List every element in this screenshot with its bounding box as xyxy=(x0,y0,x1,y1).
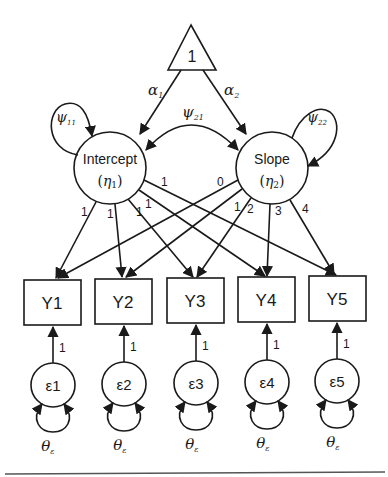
slope-y2-path xyxy=(126,189,242,277)
slope-y4-path xyxy=(267,204,270,276)
svg-text:1: 1 xyxy=(59,341,66,355)
svg-text:ε1: ε1 xyxy=(45,377,60,394)
theta-loop-1 xyxy=(37,404,70,432)
eta1-label: (η1) xyxy=(97,173,122,190)
int-loading-y5: 1 xyxy=(161,175,168,189)
theta-loop-3 xyxy=(180,402,213,430)
error-e2: 1 ε2 θε xyxy=(102,326,146,455)
svg-text:θε: θε xyxy=(256,434,269,453)
svg-text:1: 1 xyxy=(343,337,350,351)
observed-y1: Y1 xyxy=(24,280,81,325)
psi11-label: ψ11 xyxy=(56,109,76,127)
int-loading-y1: 1 xyxy=(81,205,88,219)
observed-y3: Y3 xyxy=(167,278,224,323)
error-e3: 1 ε3 θε xyxy=(174,325,218,454)
svg-text:ε5: ε5 xyxy=(329,373,344,390)
slope-label: Slope xyxy=(254,151,290,167)
theta-loop-2 xyxy=(108,403,141,431)
svg-text:θε: θε xyxy=(113,436,126,455)
alpha2-path xyxy=(203,70,246,134)
svg-text:ε3: ε3 xyxy=(188,375,203,392)
svg-text:θε: θε xyxy=(185,435,198,454)
svg-text:1: 1 xyxy=(273,338,280,352)
slope-loading-y3: 2 xyxy=(247,202,254,216)
intercept-label: Intercept xyxy=(83,151,138,167)
lgcm-path-diagram: 1 α1 α2 ψ21 Intercept (η1) ψ11 Slope (η2… xyxy=(0,0,388,477)
svg-text:Y5: Y5 xyxy=(327,290,348,309)
observed-y2: Y2 xyxy=(95,279,152,324)
svg-text:Y4: Y4 xyxy=(256,291,277,310)
svg-text:θε: θε xyxy=(41,437,54,456)
error-e4: 1 ε4 θε xyxy=(245,324,289,453)
svg-text:Y2: Y2 xyxy=(113,293,134,312)
svg-text:1: 1 xyxy=(202,339,209,353)
int-loading-y2: 1 xyxy=(107,207,114,221)
intercept-latent: Intercept (η1) xyxy=(74,132,146,204)
slope-loading-y1: 0 xyxy=(217,175,224,189)
observed-y4: Y4 xyxy=(238,277,295,322)
error-e1: 1 ε1 θε xyxy=(31,327,75,456)
constant-label: 1 xyxy=(188,48,197,65)
eta2-label: (η2) xyxy=(259,173,284,190)
observed-y5: Y5 xyxy=(309,276,366,321)
theta-loop-4 xyxy=(251,401,284,429)
slope-latent: Slope (η2) xyxy=(236,132,308,204)
psi21-label: ψ21 xyxy=(182,103,204,122)
constant-node: 1 xyxy=(168,25,216,70)
psi22-label: ψ22 xyxy=(307,109,327,127)
intercept-y2-path xyxy=(115,204,122,277)
int-loading-y4: 1 xyxy=(145,197,152,211)
svg-text:Y1: Y1 xyxy=(42,294,63,313)
error-e5: 1 ε5 θε xyxy=(315,323,359,452)
theta-loop-5 xyxy=(321,400,354,428)
alpha1-path xyxy=(140,70,181,134)
svg-text:θε: θε xyxy=(326,433,339,452)
covariance-arc xyxy=(146,125,238,150)
int-loading-y3: 1 xyxy=(136,205,143,219)
alpha2-label: α2 xyxy=(224,81,239,100)
slope-loading-y2: 1 xyxy=(234,200,241,214)
alpha1-label: α1 xyxy=(148,81,163,100)
slope-loading-y5: 4 xyxy=(302,202,309,216)
slope-loading-y4: 3 xyxy=(275,204,282,218)
bottom-divider xyxy=(5,472,385,474)
svg-text:ε2: ε2 xyxy=(116,376,131,393)
svg-text:1: 1 xyxy=(130,340,137,354)
svg-text:Y3: Y3 xyxy=(185,292,206,311)
intercept-y1-path xyxy=(56,202,96,278)
svg-text:ε4: ε4 xyxy=(259,374,274,391)
